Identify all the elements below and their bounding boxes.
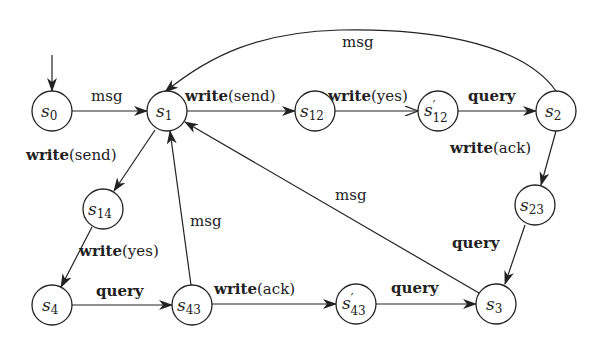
label-s1-s12: write(send)	[184, 87, 276, 105]
label-s14-s4: write(yes)	[78, 242, 159, 260]
label-s0-s1: msg	[91, 87, 123, 105]
edge-s23-s3	[505, 225, 525, 284]
edge-s1-s14	[114, 130, 155, 191]
label-s12-s12p: write(yes)	[327, 87, 408, 105]
label-s2-s23: write(ack)	[449, 139, 531, 157]
label-s43-s43p: write(ack)	[213, 280, 295, 298]
state-s3: s3	[476, 284, 516, 324]
state-s12-prime: s′12	[418, 91, 458, 131]
label-s1-s14: write(send)	[25, 146, 117, 164]
edges	[52, 30, 556, 305]
label-s43p-s3: query	[391, 279, 440, 297]
state-s23: s23	[515, 185, 555, 225]
label-s43-s1: msg	[190, 212, 222, 230]
state-s0: s0	[32, 91, 72, 131]
label-s4-s43: query	[96, 282, 145, 300]
state-s12: s12	[295, 91, 335, 131]
state-s43-prime: s′43	[336, 284, 376, 324]
state-diagram: msg write(send) write(yes) query msg wri…	[0, 0, 599, 346]
edge-labels: msg write(send) write(yes) query msg wri…	[25, 33, 531, 300]
state-s2: s2	[536, 91, 576, 131]
label-s3-s1: msg	[335, 186, 367, 204]
label-s12p-s2: query	[468, 87, 517, 105]
label-s2-s1: msg	[342, 33, 374, 51]
edge-s2-s23	[541, 131, 556, 185]
state-s4: s4	[32, 285, 72, 325]
edge-s3-s1	[185, 122, 479, 293]
state-s1: s1	[147, 91, 187, 131]
label-s23-s3: query	[452, 234, 501, 252]
state-s14: s14	[83, 189, 123, 229]
state-s43: s43	[172, 285, 212, 325]
edge-s43-s1	[170, 131, 191, 285]
